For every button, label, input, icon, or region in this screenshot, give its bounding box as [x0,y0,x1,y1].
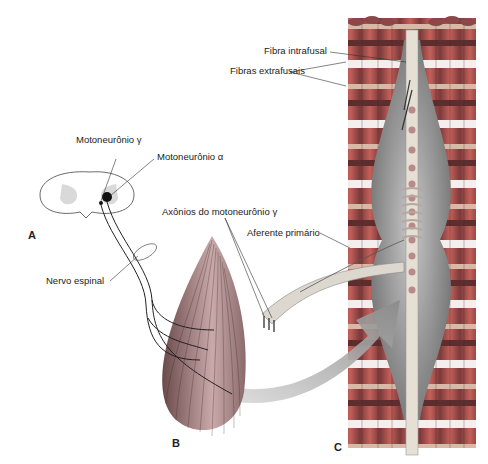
muscle [162,236,245,430]
spinal-cord [40,172,134,218]
label-motoneuron-alpha: Motoneurônio α [157,152,223,162]
muscle-spindle-diagram: Motoneurônio γ Motoneurônio α A Nervo es… [0,0,488,464]
label-motoneuron-gamma: Motoneurônio γ [76,135,141,145]
label-gamma-axons: Axônios do motoneurônio γ [162,207,277,217]
label-spinal-nerve: Nervo espinal [46,276,104,286]
panel-label-c: C [334,442,342,453]
panel-label-b: B [172,438,180,449]
label-extrafusal-fibers: Fibras extrafusais [230,66,305,76]
label-intrafusal-fiber: Fibra intrafusal [264,46,327,56]
label-primary-afferent: Aferente primário [247,228,320,238]
gamma-motoneuron-body [99,201,103,205]
spinal-nerve-ring [131,240,160,263]
panel-label-a: A [28,230,36,241]
